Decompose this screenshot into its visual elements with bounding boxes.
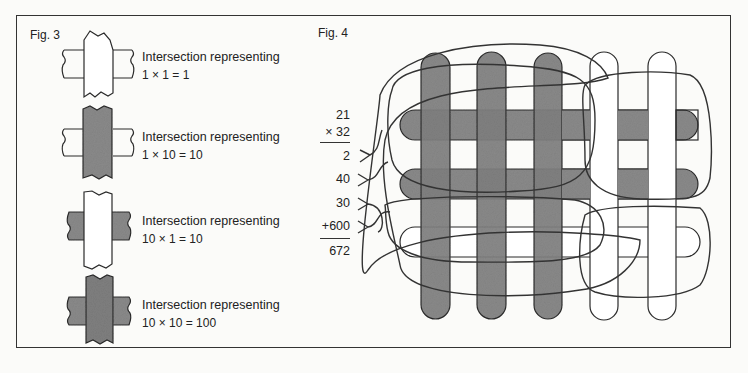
fig4-grid-diagram <box>0 0 748 373</box>
vertical-bar-white-2 <box>648 52 676 320</box>
vertical-bar-shaded-2 <box>477 52 506 319</box>
arrow-2 <box>360 130 382 162</box>
